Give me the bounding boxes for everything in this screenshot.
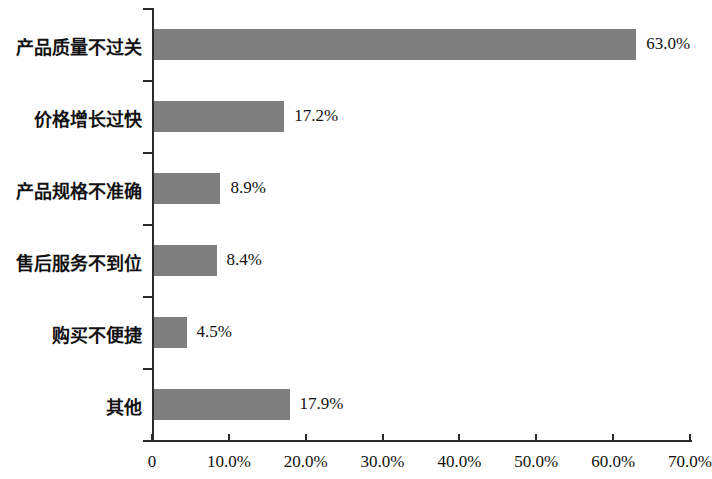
x-axis-tick (612, 434, 614, 442)
bar (154, 29, 636, 60)
category-label: 购买不便捷 (0, 321, 148, 347)
x-axis-tick-label: 0 (148, 452, 157, 472)
x-axis-tick (458, 434, 460, 442)
x-axis-tick-label: 40.0% (437, 452, 481, 472)
x-axis-tick-label: 60.0% (591, 452, 635, 472)
y-axis-tick (143, 296, 152, 298)
bar (154, 389, 290, 420)
x-axis-tick (305, 434, 307, 442)
x-axis-tick (382, 434, 384, 442)
x-axis-tick-label: 50.0% (514, 452, 558, 472)
bar (154, 245, 217, 276)
y-axis-tick (143, 80, 152, 82)
bar-value-label: 17.9% (300, 394, 344, 414)
bar-value-label: 63.0% (646, 34, 690, 54)
bar (154, 317, 187, 348)
bar-value-label: 17.2% (294, 106, 338, 126)
bar-value-label: 8.9% (230, 178, 265, 198)
bar-value-label: 8.4% (227, 250, 262, 270)
y-axis-tick (143, 368, 152, 370)
x-axis-tick-label: 30.0% (361, 452, 405, 472)
bar-value-label: 4.5% (197, 322, 232, 342)
category-label: 其他 (0, 393, 148, 419)
x-axis-tick-label: 20.0% (284, 452, 328, 472)
x-axis-tick (151, 434, 153, 442)
category-label: 价格增长过快 (0, 105, 148, 131)
category-label: 售后服务不到位 (0, 249, 148, 275)
bar (154, 101, 284, 132)
x-axis-line (152, 440, 692, 442)
y-axis-tick (143, 152, 152, 154)
y-axis-tick (143, 224, 152, 226)
bar (154, 173, 220, 204)
y-axis-line (152, 8, 154, 442)
x-axis-tick-label: 70.0% (668, 452, 712, 472)
x-axis-tick (228, 434, 230, 442)
x-axis-tick-label: 10.0% (207, 452, 251, 472)
x-axis-tick (689, 434, 691, 442)
y-axis-tick (143, 8, 152, 10)
category-label: 产品质量不过关 (0, 33, 148, 59)
bar-chart: 产品质量不过关63.0%价格增长过快17.2%产品规格不准确8.9%售后服务不到… (0, 0, 712, 479)
x-axis-tick (535, 434, 537, 442)
category-label: 产品规格不准确 (0, 177, 148, 203)
